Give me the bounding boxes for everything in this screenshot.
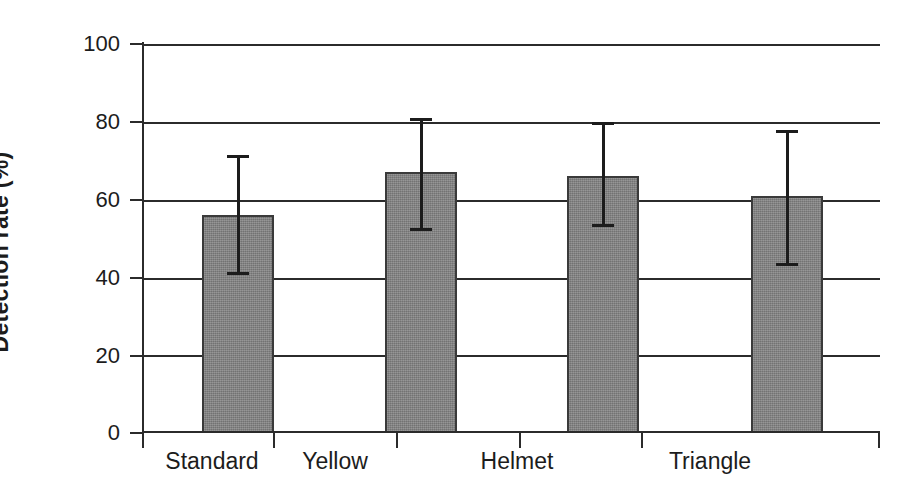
- y-tick-label-0-wrap: 0: [62, 422, 120, 444]
- bar-yellow[interactable]: [385, 172, 457, 433]
- x-axis-label-standard: Standard: [152, 449, 272, 474]
- y-tick-label-20: 20: [62, 345, 120, 367]
- y-tick-label-20-wrap: 20: [62, 345, 120, 367]
- bar-chart-figure: Detection rate (%) 100 80 60 40 20 0: [0, 0, 915, 504]
- y-tick-label-100-wrap: 100: [62, 33, 120, 55]
- x-tick-boundary-4: [641, 433, 643, 448]
- x-tick-boundary-5: [878, 433, 880, 448]
- y-tick-label-0: 0: [62, 422, 120, 444]
- bar-helmet[interactable]: [567, 176, 639, 433]
- gridline-80: [142, 122, 880, 124]
- y-tick-label-80-wrap: 80: [62, 111, 120, 133]
- errorbar-cap-top: [776, 130, 798, 133]
- x-axis-label-triangle: Triangle: [640, 449, 780, 474]
- y-tick-label-100: 100: [62, 33, 120, 55]
- x-tick-boundary-1: [273, 433, 275, 448]
- y-axis-title-text: Detection rate (%): [0, 152, 14, 353]
- y-tick-label-60-wrap: 60: [62, 189, 120, 211]
- errorbar-cap-top: [227, 155, 249, 158]
- x-axis-label-helmet: Helmet: [457, 449, 577, 474]
- x-axis-baseline: [142, 431, 880, 433]
- y-axis-title: Detection rate (%): [0, 0, 56, 504]
- x-tick-boundary-3: [519, 433, 521, 448]
- y-tick-label-60: 60: [62, 189, 120, 211]
- errorbar-cap-top: [410, 118, 432, 121]
- y-tick-label-40: 40: [62, 267, 120, 289]
- y-tick-label-80: 80: [62, 111, 120, 133]
- bar-triangle[interactable]: [751, 196, 823, 433]
- bar-standard[interactable]: [202, 215, 274, 433]
- y-tick-label-40-wrap: 40: [62, 267, 120, 289]
- x-axis-label-yellow: Yellow: [275, 449, 395, 474]
- plot-area: [142, 44, 880, 433]
- x-tick-boundary-2: [396, 433, 398, 448]
- gridline-100: [142, 44, 880, 46]
- x-tick-boundary-0: [142, 433, 144, 448]
